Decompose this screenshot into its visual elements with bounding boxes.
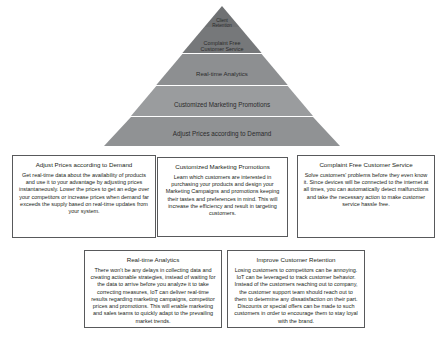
pyramid-tier-client-retention — [204, 6, 239, 27]
info-box-body: There won't be any delays in collecting … — [90, 267, 216, 325]
info-box-body: Learn which customers are interested in … — [163, 174, 282, 218]
pyramid-tier-complaint-free-customer-service — [182, 27, 261, 53]
info-box-title: Customized Marketing Promotions — [163, 163, 282, 170]
info-box-title: Adjust Prices according to Demand — [18, 161, 150, 168]
info-box-title: Complaint Free Customer Service — [303, 161, 429, 168]
pyramid-svg — [104, 6, 340, 146]
pyramid-diagram: Client Retention Complaint Free Customer… — [104, 6, 340, 146]
info-box-improve-customer-retention: Improve Customer Retention Losing custom… — [227, 250, 365, 328]
info-box-customized-marketing-promotions: Customized Marketing Promotions Learn wh… — [157, 157, 288, 237]
info-box-complaint-free-customer-service: Complaint Free Customer Service Solve cu… — [297, 155, 435, 238]
info-box-real-time-analytics: Real-time Analytics There won't be any d… — [84, 250, 222, 328]
info-box-adjust-prices: Adjust Prices according to Demand Get re… — [12, 155, 156, 238]
pyramid-tier-customized-marketing-promotions — [131, 86, 313, 116]
info-box-body: Losing customers to competitors can be a… — [233, 267, 359, 325]
info-box-title: Improve Customer Retention — [233, 256, 359, 263]
pyramid-tier-real-time-analytics — [156, 54, 287, 85]
pyramid-tier-adjust-prices — [104, 117, 340, 146]
info-box-title: Real-time Analytics — [90, 256, 216, 263]
info-box-body: Get real-time data about the availabilit… — [18, 172, 150, 216]
info-box-body: Solve customers' problems before they ev… — [303, 172, 429, 208]
